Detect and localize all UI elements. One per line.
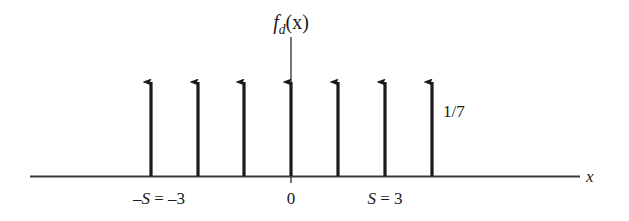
tick-label-right-symbol: S [367, 189, 376, 208]
tick-label-zero: 0 [287, 190, 296, 207]
impulse-arrows [151, 82, 432, 176]
x-axis-label: x [586, 168, 594, 185]
y-axis-label: fd(x) [273, 12, 309, 37]
tick-label-left-value: –3 [168, 189, 185, 208]
amplitude-label: 1/7 [443, 103, 465, 120]
tick-label-left-symbol: –S [133, 189, 150, 208]
y-axis-label-arg: (x) [286, 11, 309, 33]
plot-canvas [0, 0, 629, 221]
tick-label-right-equals: = [376, 189, 394, 208]
impulse-plot-figure: fd(x) x 1/7 –S = –3 0 S = 3 [0, 0, 629, 221]
tick-label-left-support: –S = –3 [133, 190, 185, 207]
tick-label-left-equals: = [150, 189, 168, 208]
tick-label-right-value: 3 [394, 189, 403, 208]
tick-label-right-support: S = 3 [367, 190, 402, 207]
